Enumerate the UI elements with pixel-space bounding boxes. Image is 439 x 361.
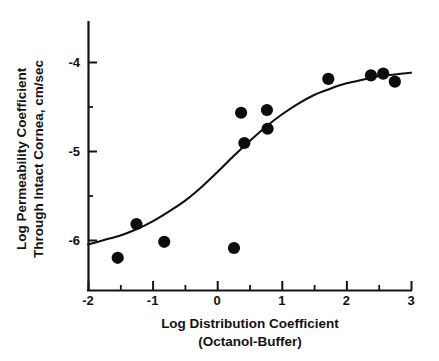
x-tick-label: 1 [278, 293, 285, 308]
data-point [228, 242, 240, 254]
x-tick-label: -2 [82, 293, 94, 308]
x-axis-title: Log Distribution Coefficient (Octanol-Bu… [161, 316, 339, 349]
data-point [389, 75, 401, 87]
data-point [261, 104, 273, 116]
data-point [130, 218, 142, 230]
x-axis-title-line2: (Octanol-Buffer) [198, 334, 302, 349]
data-point [158, 236, 170, 248]
tick-labels-layer: -2-10123-4-5-6 [68, 55, 414, 308]
data-point [377, 67, 389, 79]
x-tick-label: -1 [147, 293, 159, 308]
data-point [322, 73, 334, 85]
ticks-layer [88, 63, 412, 291]
y-axis-title-line1: Log Permeability Coefficient [14, 67, 29, 250]
y-axis-title-line2: Through Intact Cornea, cm/sec [31, 59, 46, 258]
data-point [238, 137, 250, 149]
data-point [112, 252, 124, 264]
data-point [365, 69, 377, 81]
data-point [261, 123, 273, 135]
y-axis-title: Log Permeability Coefficient Through Int… [14, 59, 46, 258]
data-points-layer [112, 67, 401, 263]
y-tick-label: -4 [68, 55, 80, 70]
y-tick-label: -5 [68, 144, 80, 159]
plot-canvas: -2-10123-4-5-6 Log Permeability Coeffici… [0, 0, 439, 361]
x-tick-label: 0 [214, 293, 221, 308]
y-tick-label: -6 [68, 233, 80, 248]
scatter-plot-figure: -2-10123-4-5-6 Log Permeability Coeffici… [0, 0, 439, 361]
x-tick-label: 3 [407, 293, 414, 308]
axes-layer [88, 22, 411, 291]
x-tick-label: 2 [343, 293, 350, 308]
data-point [235, 107, 247, 119]
x-axis-title-line1: Log Distribution Coefficient [161, 316, 339, 331]
